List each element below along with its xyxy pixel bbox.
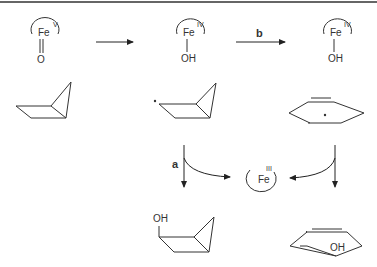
svg-text:III: III (266, 165, 272, 172)
fe-iii-complex: Fe III (246, 165, 276, 192)
svg-text:OH: OH (181, 53, 196, 64)
svg-text:IV: IV (344, 21, 351, 28)
cyclopentenol-product (290, 229, 362, 256)
arrow-b-label: b (256, 27, 263, 39)
arrow-right-curve (290, 158, 335, 178)
reaction-scheme: Fe V O Fe IV OH b Fe IV OH (0, 0, 377, 267)
cyclopentenol-oh-label: OH (330, 242, 345, 253)
svg-text:IV: IV (197, 21, 204, 28)
svg-text:Fe: Fe (38, 27, 50, 38)
svg-text:O: O (37, 54, 45, 65)
cyclopentenyl-radical (289, 98, 364, 123)
fe-iv-hydroxo-complex-2: Fe IV OH (324, 19, 352, 64)
fe-v-oxo-complex: Fe V O (31, 18, 59, 65)
svg-text:OH: OH (328, 53, 343, 64)
arrow-a-curve (184, 158, 230, 177)
arrow-a-label: a (172, 158, 179, 170)
svg-text:Fe: Fe (183, 27, 195, 38)
bicyclic-substrate (16, 82, 71, 118)
alcohol-oh-label: OH (153, 213, 168, 224)
svg-text:Fe: Fe (330, 27, 342, 38)
fe-iv-hydroxo-complex-1: Fe IV OH (177, 19, 205, 64)
radical-dot (324, 114, 326, 116)
radical-dot (154, 100, 156, 102)
svg-text:V: V (53, 21, 58, 28)
svg-text:Fe: Fe (258, 174, 270, 185)
bicyclic-radical (159, 83, 216, 118)
